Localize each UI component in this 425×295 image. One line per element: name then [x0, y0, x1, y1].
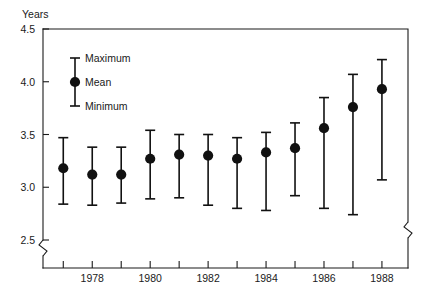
legend-label-mean: Mean [85, 76, 111, 88]
data-point-group [174, 135, 184, 198]
y-axis-tick-label: 3.0 [20, 181, 35, 193]
data-point-group [261, 132, 271, 210]
y-axis-tick-label: 4.5 [20, 23, 35, 35]
y-axis-tick-label: 4.0 [20, 76, 35, 88]
mean-marker [377, 84, 387, 94]
chart-legend [70, 58, 80, 106]
mean-marker [58, 163, 68, 173]
x-axis-tick-label: 1980 [139, 272, 163, 284]
data-point-group [319, 98, 329, 209]
right-axis-break-icon [404, 222, 412, 238]
data-point-group [203, 135, 213, 206]
x-axis-tick-label: 1982 [196, 272, 220, 284]
mean-marker [290, 143, 300, 153]
data-point-group [232, 138, 242, 209]
mean-marker [116, 169, 126, 179]
data-point-group [377, 60, 387, 180]
data-point-group [58, 138, 68, 204]
data-point-group [116, 147, 126, 203]
mean-marker [232, 154, 242, 164]
y-axis-title: Years [22, 8, 48, 20]
mean-marker [203, 151, 213, 161]
y-axis-break-icon [39, 240, 47, 256]
chart-container: 2.53.03.54.04.5Years19781980198219841986… [0, 0, 425, 295]
mean-marker [174, 149, 184, 159]
data-point-group [290, 123, 300, 196]
mean-marker [319, 123, 329, 133]
y-axis-tick-label: 3.5 [20, 129, 35, 141]
legend-label-maximum: Maximum [85, 52, 131, 64]
y-axis-tick-label: 2.5 [20, 234, 35, 246]
mean-marker [87, 169, 97, 179]
x-axis-tick-label: 1978 [81, 272, 105, 284]
mean-marker [145, 154, 155, 164]
error-bar-chart: 2.53.03.54.04.5Years19781980198219841986… [0, 0, 425, 295]
mean-marker [348, 102, 358, 112]
x-axis-tick-label: 1988 [370, 272, 394, 284]
data-point-group [145, 130, 155, 199]
data-point-group [87, 147, 97, 205]
legend-mean-marker [70, 77, 80, 87]
x-axis-tick-label: 1984 [254, 272, 278, 284]
x-axis-tick-label: 1986 [312, 272, 336, 284]
data-point-group [348, 74, 358, 214]
mean-marker [261, 147, 271, 157]
legend-label-minimum: Minimum [85, 100, 128, 112]
